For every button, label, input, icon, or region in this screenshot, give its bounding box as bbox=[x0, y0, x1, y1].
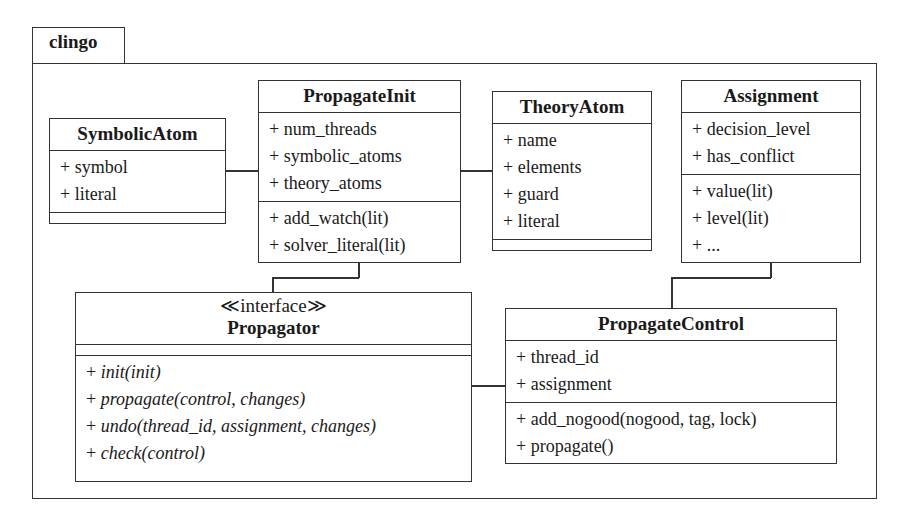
attribute: + literal bbox=[60, 181, 225, 208]
class-propagateinit: PropagateInit + num_threads + symbolic_a… bbox=[258, 80, 461, 263]
class-propagatecontrol: PropagateControl + thread_id + assignmen… bbox=[505, 308, 837, 464]
class-name: Assignment bbox=[682, 81, 860, 113]
class-name: PropagateControl bbox=[506, 309, 836, 341]
method: + check(control) bbox=[86, 440, 471, 467]
attributes-section bbox=[76, 345, 471, 356]
attribute: + symbol bbox=[60, 154, 225, 181]
attribute: + symbolic_atoms bbox=[269, 143, 460, 170]
methods-section bbox=[493, 240, 651, 250]
method: + value(lit) bbox=[692, 178, 860, 205]
attribute: + assignment bbox=[516, 371, 836, 398]
methods-section bbox=[50, 213, 225, 223]
class-name: TheoryAtom bbox=[493, 92, 651, 124]
package-tab: clingo bbox=[32, 27, 125, 64]
attribute: + literal bbox=[503, 208, 651, 235]
assoc-propagateinit-theoryatom bbox=[459, 170, 493, 172]
methods-section: + add_nogood(nogood, tag, lock) + propag… bbox=[506, 403, 836, 464]
methods-section: + value(lit) + level(lit) + ... bbox=[682, 175, 860, 263]
assoc-propagateinit-propagator-h bbox=[272, 277, 359, 279]
attributes-section: + thread_id + assignment bbox=[506, 341, 836, 403]
methods-section: + add_watch(lit) + solver_literal(lit) bbox=[259, 202, 460, 263]
attributes-section: + name + elements + guard + literal bbox=[493, 124, 651, 240]
method: + add_nogood(nogood, tag, lock) bbox=[516, 406, 836, 433]
attribute: + thread_id bbox=[516, 344, 836, 371]
class-assignment: Assignment + decision_level + has_confli… bbox=[681, 80, 861, 263]
stereotype: ≪interface≫ bbox=[76, 295, 471, 317]
assoc-assignment-propagatecontrol-v1 bbox=[770, 261, 772, 278]
class-theoryatom: TheoryAtom + name + elements + guard + l… bbox=[492, 91, 652, 251]
method: + level(lit) bbox=[692, 205, 860, 232]
attribute: + num_threads bbox=[269, 116, 460, 143]
method: + propagate(control, changes) bbox=[86, 386, 471, 413]
attribute: + guard bbox=[503, 181, 651, 208]
assoc-symbolicatom-propagateinit bbox=[225, 170, 259, 172]
assoc-assignment-propagatecontrol-h bbox=[671, 277, 771, 279]
attribute: + elements bbox=[503, 154, 651, 181]
package-name: clingo bbox=[49, 31, 98, 52]
method: + propagate() bbox=[516, 433, 836, 460]
method: + ... bbox=[692, 232, 860, 259]
attributes-section: + symbol + literal bbox=[50, 151, 225, 213]
method: + undo(thread_id, assignment, changes) bbox=[86, 413, 471, 440]
methods-section: + init(init) + propagate(control, change… bbox=[76, 356, 471, 471]
assoc-assignment-propagatecontrol-v2 bbox=[671, 277, 673, 309]
class-header: ≪interface≫ Propagator bbox=[76, 293, 471, 345]
method: + init(init) bbox=[86, 359, 471, 386]
class-name: PropagateInit bbox=[259, 81, 460, 113]
assoc-propagator-propagatecontrol bbox=[471, 385, 506, 387]
attributes-section: + decision_level + has_conflict bbox=[682, 113, 860, 175]
class-propagator: ≪interface≫ Propagator + init(init) + pr… bbox=[75, 292, 472, 482]
assoc-propagateinit-propagator-v1 bbox=[358, 261, 360, 278]
attribute: + has_conflict bbox=[692, 143, 860, 170]
class-symbolicatom: SymbolicAtom + symbol + literal bbox=[49, 118, 226, 224]
method: + add_watch(lit) bbox=[269, 205, 460, 232]
assoc-propagateinit-propagator-v2 bbox=[272, 277, 274, 293]
attribute: + decision_level bbox=[692, 116, 860, 143]
attribute: + name bbox=[503, 127, 651, 154]
attribute: + theory_atoms bbox=[269, 170, 460, 197]
method: + solver_literal(lit) bbox=[269, 232, 460, 259]
class-name: Propagator bbox=[227, 317, 320, 338]
class-name: SymbolicAtom bbox=[50, 119, 225, 151]
attributes-section: + num_threads + symbolic_atoms + theory_… bbox=[259, 113, 460, 202]
